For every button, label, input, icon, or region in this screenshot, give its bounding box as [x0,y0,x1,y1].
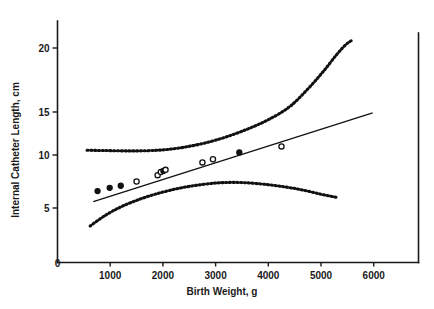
prediction-band [90,182,337,226]
scatter-plot-svg: 0100020003000400050006000 5101520 Birth … [0,0,434,309]
x-tick-label: 0 [55,258,61,269]
figure-container: 0100020003000400050006000 5101520 Birth … [0,0,434,309]
data-point [210,157,215,162]
y-tick-label: 10 [38,150,50,161]
data-point [134,179,139,184]
data-point [200,160,205,165]
data-point [95,188,100,193]
x-tick-label: 6000 [363,270,386,281]
x-tick-label: 4000 [257,270,280,281]
x-axis-label: Birth Weight, g [187,286,258,297]
x-tick-label: 3000 [204,270,227,281]
y-tick-labels: 5101520 [38,43,50,214]
regression-line [93,113,372,202]
axes-group [58,21,419,263]
data-point [107,185,112,190]
y-tick-label: 20 [38,43,50,54]
prediction-band [87,40,353,151]
y-tick-label: 15 [38,107,50,118]
data-point [237,150,242,155]
x-tick-label: 1000 [99,270,122,281]
x-tick-label: 5000 [310,270,333,281]
confidence-bands [87,40,353,226]
x-tick-label: 2000 [152,270,175,281]
data-point [163,167,168,172]
data-point [279,144,284,149]
data-point [118,183,123,188]
y-axis-label: Internal Catheter Length, cm [10,82,21,218]
x-tick-labels: 0100020003000400050006000 [55,258,386,281]
y-tick-label: 5 [44,203,50,214]
